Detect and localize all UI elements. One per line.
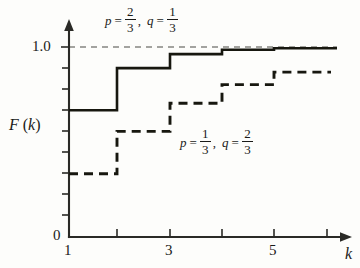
- annotation-lower-p-denominator: 3: [200, 143, 211, 156]
- y-axis-label-f: F: [9, 116, 19, 133]
- y-axis-arrow: [64, 19, 74, 31]
- y-tick-marks: [61, 47, 69, 215]
- annotation-upper-q-eq: =: [156, 14, 165, 27]
- annotation-upper-p-denominator: 3: [125, 21, 136, 34]
- annotation-lower-comma: ,: [213, 136, 221, 149]
- annotation-upper-p-eq: =: [114, 14, 123, 27]
- annotation-lower-q-numerator: 2: [242, 127, 253, 140]
- annotation-lower-q-denominator: 3: [242, 143, 253, 156]
- annotation-upper-q-fraction: 1 3: [167, 5, 178, 35]
- annotation-upper: p = 2 3 , q = 1 3: [105, 6, 179, 36]
- annotation-lower-q-fraction: 2 3: [242, 127, 253, 157]
- annotation-lower-p-numerator: 1: [200, 127, 211, 140]
- x-tick-label-5: 5: [269, 243, 277, 258]
- x-tick-label-3: 3: [165, 243, 173, 258]
- annotation-upper-p-var: p: [105, 14, 113, 27]
- y-tick-label-zero: 0: [53, 228, 61, 243]
- annotation-lower-p-fraction: 1 3: [200, 127, 211, 157]
- y-tick-label-one: 1.0: [32, 39, 51, 54]
- step-curve-dashed: [69, 72, 331, 174]
- y-axis-label: F(k): [9, 117, 41, 133]
- x-axis-label: k: [345, 246, 352, 262]
- annotation-upper-q-denominator: 3: [167, 21, 178, 34]
- x-axis-arrow: [340, 232, 352, 242]
- step-curve-solid: [69, 48, 337, 110]
- annotation-upper-p-numerator: 2: [125, 5, 136, 18]
- annotation-upper-comma: ,: [138, 14, 146, 27]
- annotation-lower-q-var: q: [222, 136, 230, 149]
- annotation-lower-p-var: p: [180, 136, 188, 149]
- annotation-upper-q-var: q: [147, 14, 155, 27]
- x-tick-marks: [69, 229, 327, 237]
- x-tick-label-1: 1: [64, 243, 72, 258]
- y-axis-label-close: ): [35, 116, 40, 133]
- annotation-lower-q-eq: =: [231, 136, 240, 149]
- cdf-step-chart: 1.0 0 1 3 5 F(k) k p = 2 3 , q = 1 3 p =…: [0, 0, 360, 268]
- annotation-upper-p-fraction: 2 3: [125, 5, 136, 35]
- annotation-upper-q-numerator: 1: [167, 5, 178, 18]
- annotation-lower: p = 1 3 , q = 2 3: [180, 128, 254, 158]
- annotation-lower-p-eq: =: [189, 136, 198, 149]
